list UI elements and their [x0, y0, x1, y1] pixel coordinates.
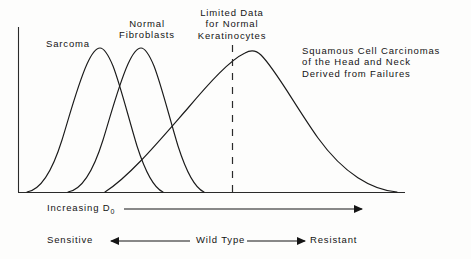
- axis-label-resistant-text: Resistant: [310, 234, 357, 245]
- figure-container: Sarcoma Normal Fibroblasts Limited Data …: [0, 0, 471, 259]
- label-normal-fibroblasts: Normal Fibroblasts: [119, 18, 175, 41]
- axis-label-sensitive: Sensitive: [47, 234, 93, 245]
- label-squamous-line1: Squamous Cell Carcinomas: [302, 45, 440, 56]
- label-normal-fibroblasts-line2: Fibroblasts: [119, 29, 175, 40]
- label-limited-line1: Limited Data: [198, 7, 267, 18]
- label-squamous-line2: of the Head and Neck: [302, 56, 440, 67]
- label-limited-keratinocytes: Limited Data for Normal Keratinocytes: [198, 7, 267, 41]
- curve-sarcoma: [27, 48, 163, 192]
- axis-label-wild-type: Wild Type: [196, 234, 245, 245]
- label-sarcoma: Sarcoma: [46, 38, 90, 49]
- axis-label-increasing-d0: Increasing D0: [47, 202, 114, 217]
- label-sarcoma-text: Sarcoma: [46, 38, 90, 49]
- axis-label-sensitive-text: Sensitive: [47, 234, 93, 245]
- label-squamous-cell-carcinoma: Squamous Cell Carcinomas of the Head and…: [302, 45, 440, 79]
- axis-label-resistant: Resistant: [310, 234, 357, 245]
- label-limited-line3: Keratinocytes: [198, 30, 267, 41]
- axis-label-wild-type-text: Wild Type: [196, 234, 245, 245]
- axis-label-increasing-text: Increasing D: [47, 202, 111, 213]
- label-normal-fibroblasts-line1: Normal: [119, 18, 175, 29]
- axis-label-d0-subscript: 0: [111, 208, 115, 215]
- label-squamous-line3: Derived from Failures: [302, 68, 440, 79]
- label-limited-line2: for Normal: [198, 18, 267, 29]
- curve-normal-fibroblasts: [68, 48, 204, 192]
